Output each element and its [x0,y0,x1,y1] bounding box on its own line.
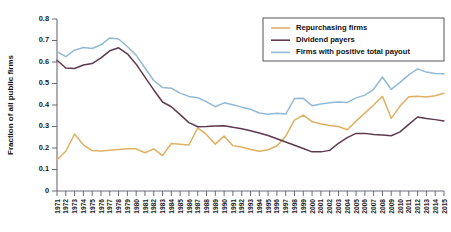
x-tick-label: 2006 [361,199,368,214]
x-tick-label: 1990 [221,199,228,214]
x-tick-label: 2005 [353,199,360,214]
x-tick-label: 1984 [168,199,175,214]
x-tick-label: 2009 [388,199,395,214]
chart-container: Fraction of all public firms 00.10.20.30… [0,0,451,232]
x-tick-label: 1977 [106,199,113,214]
x-tick-label: 1998 [291,199,298,214]
y-tick-label: 0.5 [39,78,49,87]
x-tick-label: 1978 [115,199,122,214]
x-tick-label: 2000 [309,199,316,214]
y-tick-label: 0.1 [39,164,49,173]
x-tick-label: 2002 [326,199,333,214]
legend-label-2: Firms with positive total payout [296,47,410,56]
x-tick-label: 1971 [54,199,61,214]
x-tick-label: 1980 [133,199,140,214]
x-tick-label: 1994 [256,199,263,214]
x-tick-label: 1993 [247,199,254,214]
x-tick-label: 1974 [80,199,87,214]
x-tick-label: 2012 [414,199,421,214]
x-tick-label: 1973 [71,199,78,214]
y-tick-label: 0.3 [39,121,49,130]
x-tick-label: 1999 [300,199,307,214]
y-axis-label-text: Fraction of all public firms [6,54,15,155]
y-tick-label: 0 [45,186,49,195]
chart-legend: Repurchasing firmsDividend payersFirms w… [263,18,444,61]
x-tick-label: 2004 [344,199,351,214]
x-tick-label: 1995 [265,199,272,214]
x-tick-label: 1979 [124,199,131,214]
y-axis-label: Fraction of all public firms [6,54,15,155]
x-tick-label: 1996 [273,199,280,214]
x-tick-label: 2010 [397,199,404,214]
x-tick-label: 1972 [62,199,69,214]
x-tick-label: 1985 [177,199,184,214]
x-tick-label: 1983 [159,199,166,214]
x-tick-label: 1976 [98,199,105,214]
x-tick-label: 1981 [142,199,149,214]
x-tick-label: 2003 [335,199,342,214]
legend-label-0: Repurchasing firms [296,23,367,32]
x-tick-label: 2008 [379,199,386,214]
y-tick-label: 0.7 [39,35,49,44]
x-tick-label: 1992 [238,199,245,214]
y-tick-label: 0.6 [39,57,49,66]
series-line-1 [57,48,444,152]
y-tick-label: 0.2 [39,143,49,152]
x-tick-label: 2011 [405,199,412,214]
x-tick-label: 1975 [89,199,96,214]
x-tick-label: 2007 [370,199,377,214]
y-axis-ticks: 00.10.20.30.40.50.60.70.8 [39,14,57,195]
x-tick-label: 2013 [423,199,430,214]
x-tick-label: 1986 [186,199,193,214]
x-tick-label: 2015 [441,199,448,214]
x-tick-label: 1989 [212,199,219,214]
x-tick-label: 2001 [317,199,324,214]
x-axis-ticks: 1971197219731974197519761977197819791980… [54,191,448,214]
x-tick-label: 1987 [194,199,201,214]
x-tick-label: 1982 [150,199,157,214]
line-chart: Fraction of all public firms 00.10.20.30… [0,0,451,232]
x-tick-label: 2014 [432,199,439,214]
y-tick-label: 0.4 [39,100,50,109]
y-tick-label: 0.8 [39,14,49,23]
x-tick-label: 1997 [282,199,289,214]
x-tick-label: 1991 [230,199,237,214]
x-tick-label: 1988 [203,199,210,214]
legend-label-1: Dividend payers [296,35,355,44]
series-line-0 [57,93,444,160]
